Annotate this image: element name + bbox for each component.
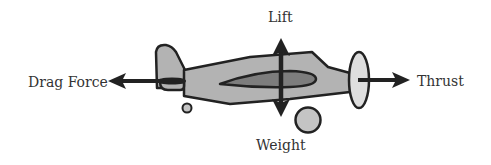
tail-wheel [183,104,192,113]
weight-label: Weight [256,138,306,152]
thrust-label: Thrust [417,74,464,88]
main-wheel [296,108,321,133]
flight-forces-diagram: Lift Weight Drag Force Thrust [0,0,491,165]
drag-force-label: Drag Force [28,75,108,89]
lift-label: Lift [268,10,293,24]
